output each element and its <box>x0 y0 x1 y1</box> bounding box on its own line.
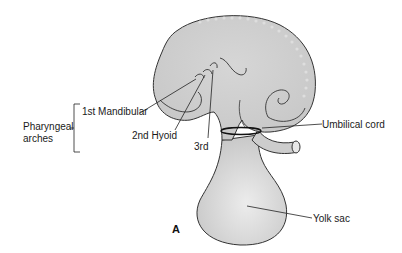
pharyngeal-arches-label-line1: Pharyngeal <box>23 121 74 132</box>
embryo-body <box>153 16 315 140</box>
panel-label: A <box>172 223 180 235</box>
second-hyoid-arch-label: 2nd Hyoid <box>132 130 177 141</box>
first-mandibular-arch-label: 1st Mandibular <box>82 106 148 117</box>
umbilical-cord-label: Umbilical cord <box>322 119 385 130</box>
pharyngeal-arches-label-line2: arches <box>23 133 53 144</box>
yolk-sac-label: Yolk sac <box>313 213 350 224</box>
third-arch-label: 3rd <box>194 141 208 152</box>
embryo-diagram: Pharyngeal arches 1st Mandibular 2nd Hyo… <box>0 0 402 253</box>
